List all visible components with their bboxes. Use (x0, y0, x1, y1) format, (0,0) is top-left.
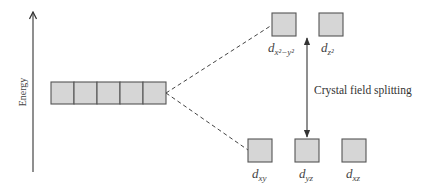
degenerate-orbital-box (143, 82, 166, 104)
orbital-box-dxz (342, 139, 366, 162)
orbital-box-dyz (295, 139, 319, 162)
lower-orbital-set (248, 139, 366, 162)
label-subscript: z² (328, 47, 334, 57)
label-subscript: xz (353, 173, 361, 183)
energy-axis-label: Energy (17, 78, 28, 107)
label-subscript: x²−y² (275, 47, 294, 57)
label-dz2: dz² (321, 41, 334, 57)
degenerate-orbital-box (120, 82, 143, 104)
label-dx2-y2: dx²−y² (268, 41, 294, 57)
orbital-box-dz2 (319, 13, 343, 36)
orbital-box-dxy (248, 139, 272, 162)
crystal-field-splitting-label: Crystal field splitting (314, 84, 412, 96)
lower-connector-line (166, 93, 248, 150)
degenerate-orbital-box (74, 82, 97, 104)
label-subscript: yz (306, 173, 314, 183)
label-dyz: dyz (299, 167, 313, 183)
degenerate-orbital-box (51, 82, 74, 104)
degenerate-orbitals (51, 82, 166, 104)
orbital-box-dx2-y2 (272, 13, 296, 36)
splitting-connectors (166, 25, 272, 150)
label-dxy: dxy (252, 167, 267, 183)
upper-orbital-set (272, 13, 343, 36)
upper-connector-line (166, 25, 272, 93)
label-dxz: dxz (346, 167, 360, 183)
degenerate-orbital-box (97, 82, 120, 104)
label-subscript: xy (259, 173, 267, 183)
